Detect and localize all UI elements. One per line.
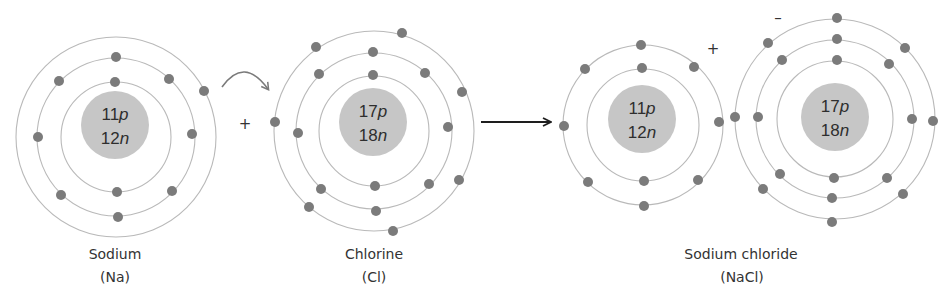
electron xyxy=(639,176,649,186)
electron xyxy=(199,86,209,96)
electron xyxy=(424,179,434,189)
electron xyxy=(443,122,453,132)
electron xyxy=(457,87,467,97)
electron xyxy=(56,190,66,200)
chlorine-atom: 17p18n xyxy=(270,28,474,236)
electron xyxy=(714,117,724,127)
proton-count: 11p xyxy=(101,105,128,124)
electron xyxy=(167,186,177,196)
electron xyxy=(454,175,464,185)
electron xyxy=(753,112,763,122)
electron xyxy=(693,175,703,185)
electron xyxy=(368,47,378,57)
electron xyxy=(371,206,381,216)
electron xyxy=(112,187,122,197)
electron xyxy=(639,201,649,211)
electron xyxy=(730,112,740,122)
electron xyxy=(270,117,280,127)
chlorine-symbol: (Cl) xyxy=(362,269,387,285)
electron xyxy=(777,55,787,65)
electron xyxy=(832,55,842,65)
chloride-ion-negative-charge: – xyxy=(774,9,782,27)
electron xyxy=(827,217,837,227)
electron xyxy=(311,42,321,52)
electron xyxy=(882,173,892,183)
electron xyxy=(316,184,326,194)
electron xyxy=(758,184,768,194)
electron xyxy=(763,38,773,48)
sodium-atom: 11p12n xyxy=(16,37,216,237)
electron xyxy=(827,193,837,203)
electron xyxy=(420,68,430,78)
nucleus xyxy=(81,91,149,159)
electron xyxy=(829,173,839,183)
reactant-plus-sign: + xyxy=(239,115,252,133)
sodium-symbol: (Na) xyxy=(100,269,130,285)
electron xyxy=(775,169,785,179)
electron xyxy=(832,13,842,23)
electron xyxy=(832,34,842,44)
electron xyxy=(54,76,64,86)
proton-count: 17p xyxy=(821,97,849,116)
chloride-ion: 17p18n xyxy=(730,13,938,227)
electron xyxy=(113,212,123,222)
electron xyxy=(187,129,197,139)
electron xyxy=(583,177,593,187)
nucleus xyxy=(801,83,869,151)
proton-count: 17p xyxy=(359,102,387,121)
electron xyxy=(397,28,407,38)
electron xyxy=(164,74,174,84)
electron xyxy=(907,114,917,124)
electron xyxy=(110,77,120,87)
neutron-count: 18n xyxy=(821,121,849,140)
electron xyxy=(293,128,303,138)
electron xyxy=(689,62,699,72)
electron xyxy=(637,63,647,73)
sodium-ion-positive-charge: + xyxy=(707,40,720,58)
sodium-chloride-symbol: (NaCl) xyxy=(720,269,764,285)
electron-transfer-arrow-icon xyxy=(222,72,268,89)
neutron-count: 12n xyxy=(101,129,129,148)
neutron-count: 12n xyxy=(628,123,656,142)
sodium-label: Sodium xyxy=(89,246,142,262)
neutron-count: 18n xyxy=(359,126,387,145)
electron xyxy=(370,181,380,191)
electron xyxy=(304,202,314,212)
electron xyxy=(388,226,398,236)
electron xyxy=(580,64,590,74)
electron xyxy=(884,59,894,69)
nucleus xyxy=(339,88,407,156)
nucleus xyxy=(608,85,676,153)
electron xyxy=(928,116,938,126)
sodium-ion: 11p12n xyxy=(559,40,724,211)
ionic-bond-diagram: 11p12n 17p18n 11p12n 17p18n + + – Sodium… xyxy=(0,0,952,294)
proton-count: 11p xyxy=(628,99,655,118)
electron xyxy=(111,52,121,62)
electron xyxy=(368,70,378,80)
electron xyxy=(559,121,569,131)
electron xyxy=(636,40,646,50)
electron xyxy=(898,189,908,199)
electron xyxy=(314,69,324,79)
electron xyxy=(900,43,910,53)
electron xyxy=(33,132,43,142)
chlorine-label: Chlorine xyxy=(345,246,403,262)
sodium-chloride-label: Sodium chloride xyxy=(684,246,797,262)
